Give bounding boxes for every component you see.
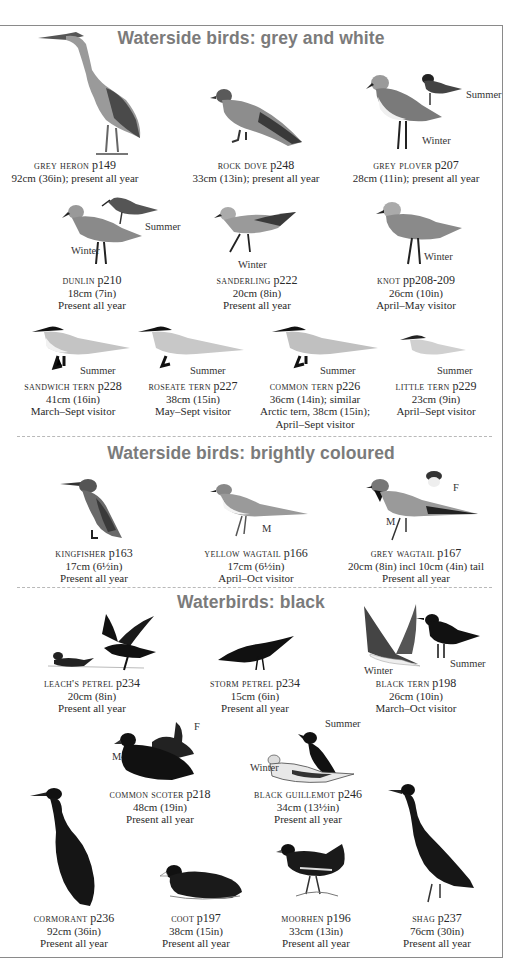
bird-detail: 34cm (13½in) (277, 801, 339, 813)
bird-name: COMMON SCOTER (110, 788, 184, 800)
sex-label-male: M (386, 516, 395, 527)
bird-detail: Present all year (126, 813, 194, 825)
sex-label-male: M (112, 751, 121, 762)
page-ref: p196 (327, 911, 351, 925)
bird-detail: 20cm (8in) (68, 690, 117, 702)
kingfisher-illustration (60, 478, 125, 543)
bird-detail: Present all year (382, 572, 450, 584)
coot-illustration (160, 862, 245, 902)
caption-sanderling: SANDERLING p222 20cm (8in) Present all y… (217, 274, 298, 312)
bird-detail: Present all year (162, 937, 230, 949)
caption-kingfisher: KINGFISHER p163 17cm (6½in) Present all … (55, 547, 132, 585)
bird-name: SANDERLING (217, 274, 271, 286)
storm-petrel-illustration (218, 634, 298, 674)
common-scoter-illustration (112, 718, 197, 783)
bird-detail: 38cm (15in) (166, 393, 220, 405)
sex-label-female: F (194, 721, 200, 732)
bird-name: KNOT (377, 274, 400, 286)
plumage-label-summer: Summer (325, 718, 361, 729)
black-guillemot-illustration (262, 730, 357, 785)
bird-detail: 38cm (15in) (169, 925, 223, 937)
page-ref: p234 (116, 676, 140, 690)
page-ref: p167 (437, 546, 461, 560)
bird-detail: April–Oct visitor (218, 572, 293, 584)
bird-detail: 33cm (13in) (289, 925, 343, 937)
bird-name: GREY PLOVER (373, 159, 432, 171)
page-ref: pp208-209 (403, 273, 455, 287)
page-ref: p229 (452, 379, 476, 393)
page-ref: p234 (276, 676, 300, 690)
page-ref: p197 (197, 911, 221, 925)
caption-sandwich-tern: SANDWICH TERN p228 41cm (16in) March–Sep… (24, 380, 121, 418)
cormorant-illustration (30, 782, 105, 907)
bird-name: DUNLIN (62, 274, 94, 286)
page-ref: p149 (92, 158, 116, 172)
caption-black-tern: BLACK TERN p198 26cm (10in) March–Oct vi… (376, 677, 457, 715)
bird-detail: 26cm (10in) (389, 690, 443, 702)
bird-name: LEACH'S PETREL (44, 677, 113, 689)
plumage-label-winter: Winter (422, 135, 451, 146)
bird-name: GREY WAGTAIL (371, 547, 435, 559)
caption-shag: SHAG p237 76cm (30in) Present all year (403, 912, 471, 950)
bird-detail: April–Sept visitor (396, 405, 475, 417)
caption-rock-dove: ROCK DOVE p248 33cm (13in); present all … (192, 159, 319, 184)
bird-name: SANDWICH TERN (24, 380, 95, 392)
bird-detail: March–Oct visitor (376, 702, 457, 714)
plumage-label-winter: Winter (71, 245, 100, 256)
bird-detail: 20cm (8in) (233, 287, 282, 299)
caption-moorhen: MOORHEN p196 33cm (13in) Present all yea… (281, 912, 350, 950)
bird-detail: 20cm (8in) incl 10cm (4in) tail (348, 560, 484, 572)
plumage-label-winter: Winter (250, 762, 279, 773)
plumage-label-summer: Summer (466, 89, 502, 100)
bird-detail: Present all year (58, 299, 126, 311)
sex-label-male: M (262, 523, 271, 534)
bird-detail: 28cm (11in); present all year (353, 172, 480, 184)
bird-detail: 76cm (30in) (410, 925, 464, 937)
bird-name: MOORHEN (281, 912, 324, 924)
bird-detail: 18cm (7in) (68, 287, 117, 299)
page-ref: p198 (432, 676, 456, 690)
bird-name: COMMON TERN (270, 380, 334, 392)
page-ref: p207 (435, 158, 459, 172)
shag-illustration (388, 780, 478, 905)
bird-name: LITTLE TERN (396, 380, 450, 392)
plumage-label-winter: Winter (364, 665, 393, 676)
bird-name: ROCK DOVE (218, 159, 268, 171)
rock-dove-illustration (210, 78, 305, 153)
bird-name: CORMORANT (34, 912, 88, 924)
bird-name: GREY HERON (34, 159, 89, 171)
page-ref: p246 (338, 787, 362, 801)
page-ref: p227 (214, 379, 238, 393)
section-divider (17, 587, 492, 588)
bird-name: YELLOW WAGTAIL (204, 547, 281, 559)
bird-name: COOT (171, 912, 194, 924)
section-title-brightly-coloured: Waterside birds: brightly coloured (0, 443, 502, 464)
caption-coot: COOT p197 38cm (15in) Present all year (162, 912, 230, 950)
caption-little-tern: LITTLE TERN p229 23cm (9in) April–Sept v… (396, 380, 477, 418)
bird-detail: 23cm (9in) (412, 393, 461, 405)
section-divider (17, 436, 492, 437)
bird-name: SHAG (412, 912, 435, 924)
plumage-label-winter: Winter (238, 259, 267, 270)
caption-grey-plover: GREY PLOVER p207 28cm (11in); present al… (353, 159, 480, 184)
bird-detail: Arctic tern, 38cm (15in); (260, 405, 370, 417)
bird-detail: Present all year (40, 937, 108, 949)
page-ref: p218 (186, 787, 210, 801)
bird-detail: Present all year (274, 813, 342, 825)
page-ref: p226 (336, 379, 360, 393)
plumage-label-winter: Winter (424, 251, 453, 262)
bird-name: BLACK TERN (376, 677, 430, 689)
grey-plover-illustration (366, 63, 466, 158)
plumage-label-summer: Summer (80, 365, 116, 376)
bird-detail: 92cm (36in) (47, 925, 101, 937)
page-ref: p222 (273, 273, 297, 287)
caption-dunlin: DUNLIN p210 18cm (7in) Present all year (58, 274, 126, 312)
page-ref: p248 (270, 158, 294, 172)
bird-detail: Present all year (58, 702, 126, 714)
page-ref: p236 (90, 911, 114, 925)
grey-wagtail-illustration (366, 470, 481, 545)
bird-detail: April–May visitor (376, 299, 456, 311)
grey-heron-illustration (36, 30, 146, 160)
plumage-label-summer: Summer (190, 365, 226, 376)
plumage-label-summer: Summer (320, 365, 356, 376)
